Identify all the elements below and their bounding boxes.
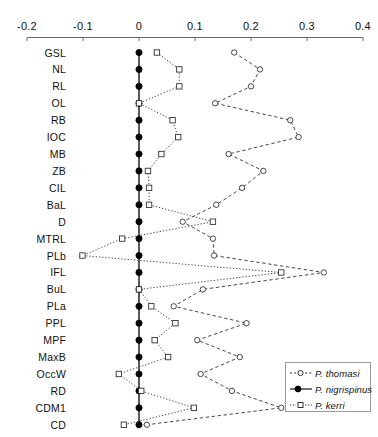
data-point-open-circle-icon [198, 371, 203, 376]
data-point-open-square-icon [146, 185, 151, 190]
chart-container: -0.2-0.100.10.20.30.4 GSLNLRLOLRBIOCMBZB… [0, 0, 378, 437]
data-point-filled-circle-icon [136, 303, 142, 309]
data-point-open-circle-icon [257, 67, 262, 72]
data-point-open-circle-icon [144, 422, 149, 427]
legend-marker-open-circle-icon [290, 367, 312, 379]
legend-item: P. thomasi [290, 366, 360, 380]
y-axis-category-label: D [0, 216, 66, 228]
y-axis-category-label: IFL [0, 266, 66, 278]
data-point-open-square-icon [177, 84, 182, 89]
y-axis-category-label: GSL [0, 47, 66, 59]
data-point-open-square-icon [154, 50, 159, 55]
data-point-open-square-icon [139, 388, 144, 393]
legend-marker-filled-circle-icon [290, 383, 312, 395]
y-axis-category-label: RD [0, 385, 66, 397]
data-point-open-square-icon [80, 253, 85, 258]
x-axis-tick-label: 0.1 [187, 20, 203, 32]
data-point-filled-circle-icon [136, 202, 142, 208]
data-point-open-circle-icon [180, 219, 185, 224]
data-point-filled-circle-icon [136, 49, 142, 55]
data-point-open-circle-icon [296, 134, 301, 139]
data-point-open-square-icon [159, 151, 164, 156]
legend-item-label: P. kerri [315, 400, 345, 411]
data-point-open-circle-icon [237, 354, 242, 359]
data-point-filled-circle-icon [136, 422, 142, 428]
data-point-open-circle-icon [239, 185, 244, 190]
series-p-kerri [80, 50, 284, 428]
data-point-open-circle-icon [210, 236, 215, 241]
data-point-open-square-icon [145, 168, 150, 173]
data-point-open-square-icon [177, 67, 182, 72]
data-point-open-circle-icon [288, 117, 293, 122]
y-axis-category-label: PPL [0, 317, 66, 329]
data-point-open-square-icon [173, 321, 178, 326]
y-axis-category-label: IOC [0, 131, 66, 143]
data-point-filled-circle-icon [136, 320, 142, 326]
x-axis-tick-label: -0.1 [73, 20, 93, 32]
y-axis-category-label: MPF [0, 334, 66, 346]
legend: P. thomasi P. nigrispinus P. kerri [285, 362, 371, 412]
data-point-filled-circle-icon [136, 337, 142, 343]
y-axis-category-label: MB [0, 148, 66, 160]
data-point-open-circle-icon [195, 337, 200, 342]
data-point-filled-circle-icon [136, 252, 142, 258]
legend-item-label: P. thomasi [315, 368, 360, 379]
y-axis-category-label: CD [0, 419, 66, 431]
data-point-filled-circle-icon [136, 269, 142, 275]
data-point-filled-circle-icon [136, 371, 142, 377]
data-point-open-square-icon [116, 371, 121, 376]
data-point-filled-circle-icon [136, 236, 142, 242]
data-point-filled-circle-icon [136, 151, 142, 157]
data-point-open-square-icon [121, 422, 126, 427]
legend-marker-open-square-icon [290, 399, 312, 411]
x-axis-tick-label: 0.2 [243, 20, 259, 32]
data-point-open-square-icon [170, 117, 175, 122]
data-point-filled-circle-icon [136, 219, 142, 225]
legend-item-label: P. nigrispinus [315, 384, 372, 395]
data-point-open-circle-icon [171, 304, 176, 309]
data-point-open-square-icon [152, 337, 157, 342]
data-point-filled-circle-icon [136, 185, 142, 191]
x-axis-tick-label: 0.4 [355, 20, 371, 32]
y-axis-category-label: CIL [0, 182, 66, 194]
x-axis [27, 38, 363, 42]
data-point-filled-circle-icon [136, 168, 142, 174]
data-point-open-circle-icon [279, 405, 284, 410]
y-axis-category-label: RL [0, 80, 66, 92]
data-point-open-square-icon [210, 219, 215, 224]
x-axis-tick-label: -0.2 [17, 20, 37, 32]
x-axis-tick-label: 0.3 [299, 20, 315, 32]
data-point-open-square-icon [136, 287, 141, 292]
data-point-open-circle-icon [229, 388, 234, 393]
data-point-open-square-icon [120, 236, 125, 241]
y-axis-category-label: CDM1 [0, 402, 66, 414]
y-axis-category-label: BaL [0, 199, 66, 211]
x-axis-tick-label: 0 [136, 20, 142, 32]
data-point-filled-circle-icon [136, 405, 142, 411]
x-axis-ticks [27, 38, 363, 42]
data-point-open-circle-icon [244, 321, 249, 326]
y-axis-category-label: PLb [0, 250, 66, 262]
y-axis-category-label: BuL [0, 283, 66, 295]
series-line [82, 53, 281, 425]
y-axis-category-label: MaxB [0, 351, 66, 363]
data-point-open-circle-icon [321, 270, 326, 275]
data-point-open-circle-icon [200, 287, 205, 292]
data-point-open-circle-icon [232, 50, 237, 55]
data-point-filled-circle-icon [136, 134, 142, 140]
data-point-open-circle-icon [214, 202, 219, 207]
y-axis-category-label: RB [0, 114, 66, 126]
data-point-open-circle-icon [211, 253, 216, 258]
data-point-filled-circle-icon [136, 66, 142, 72]
data-point-open-square-icon [176, 134, 181, 139]
data-point-filled-circle-icon [136, 354, 142, 360]
y-axis-category-label: PLa [0, 300, 66, 312]
data-point-open-square-icon [136, 101, 141, 106]
data-point-open-square-icon [146, 202, 151, 207]
y-axis-category-label: MTRL [0, 233, 66, 245]
legend-item: P. nigrispinus [290, 382, 372, 396]
data-point-open-square-icon [191, 405, 196, 410]
y-axis-category-label: OccW [0, 368, 66, 380]
y-axis-category-label: NL [0, 63, 66, 75]
data-point-filled-circle-icon [136, 83, 142, 89]
